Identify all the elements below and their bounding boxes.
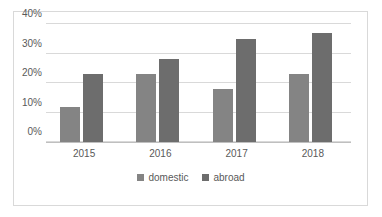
bar-group-2015 (46, 24, 122, 142)
x-axis-tick-label: 2017 (202, 147, 272, 161)
x-axis-tick-label: 2018 (278, 147, 348, 161)
bar-abroad-2017[interactable] (236, 39, 256, 142)
legend-label: abroad (213, 172, 244, 183)
legend-label: domestic (148, 172, 188, 183)
bar-domestic-2017[interactable] (213, 89, 233, 142)
bar-domestic-2015[interactable] (60, 107, 80, 142)
x-axis-tick-label: 2016 (125, 147, 195, 161)
legend-swatch-icon (202, 174, 209, 181)
legend-swatch-icon (137, 174, 144, 181)
chart-legend: domesticabroad (0, 172, 382, 183)
bar-group-2016 (122, 24, 198, 142)
x-axis: 2015201620172018 (46, 147, 351, 163)
y-axis: 0%10%20%30%40% (6, 24, 42, 142)
bar-abroad-2016[interactable] (159, 59, 179, 142)
x-axis-line (46, 142, 351, 143)
y-axis-tick-label: 20% (8, 68, 42, 78)
y-axis-tick-label: 0% (8, 127, 42, 137)
bar-group-2017 (199, 24, 275, 142)
bar-domestic-2018[interactable] (289, 74, 309, 142)
y-axis-tick-label: 40% (8, 9, 42, 19)
x-axis-tick-label: 2015 (49, 147, 119, 161)
bar-abroad-2015[interactable] (83, 74, 103, 142)
bar-domestic-2016[interactable] (136, 74, 156, 142)
bar-layer (46, 24, 351, 142)
legend-item-abroad[interactable]: abroad (202, 172, 244, 183)
bar-group-2018 (275, 24, 351, 142)
bar-abroad-2018[interactable] (312, 33, 332, 142)
legend-item-domestic[interactable]: domestic (137, 172, 188, 183)
y-axis-tick-label: 10% (8, 98, 42, 108)
y-axis-tick-label: 30% (8, 39, 42, 49)
